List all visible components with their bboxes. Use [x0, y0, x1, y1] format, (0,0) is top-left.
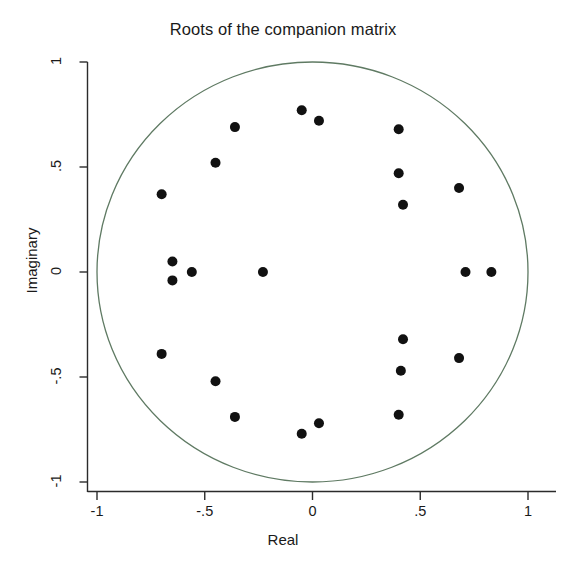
- scatter-point: [454, 183, 464, 193]
- scatter-point: [396, 366, 406, 376]
- scatter-point: [394, 168, 404, 178]
- scatter-point: [486, 267, 496, 277]
- scatter-point: [461, 267, 471, 277]
- x-tick-label: 0: [293, 503, 333, 519]
- scatter-point: [157, 349, 167, 359]
- scatter-point: [398, 200, 408, 210]
- x-axis-label: Real: [0, 531, 566, 548]
- scatter-point: [314, 418, 324, 428]
- scatter-point: [394, 410, 404, 420]
- y-tick-label: -.5: [48, 356, 64, 396]
- y-tick-label: -1: [48, 461, 64, 501]
- scatter-point: [230, 122, 240, 132]
- scatter-point: [230, 412, 240, 422]
- scatter-point: [398, 334, 408, 344]
- scatter-point: [297, 105, 307, 115]
- scatter-point: [157, 189, 167, 199]
- scatter-point: [187, 267, 197, 277]
- x-tick-label: -1: [77, 503, 117, 519]
- scatter-point: [167, 257, 177, 267]
- y-tick-label: 1: [48, 41, 64, 81]
- y-tick-label: .5: [48, 146, 64, 186]
- x-tick-label: -.5: [185, 503, 225, 519]
- scatter-point: [454, 353, 464, 363]
- scatter-point: [258, 267, 268, 277]
- scatter-point: [297, 429, 307, 439]
- x-tick-label: 1: [508, 503, 548, 519]
- scatter-point: [394, 124, 404, 134]
- scatter-point: [211, 376, 221, 386]
- x-tick-label: .5: [400, 503, 440, 519]
- y-tick-label: 0: [48, 251, 64, 291]
- roots-companion-matrix-figure: Roots of the companion matrix -1-.50.51 …: [0, 0, 566, 564]
- scatter-plot-canvas: [0, 0, 566, 564]
- data-points: [157, 105, 497, 438]
- scatter-point: [167, 275, 177, 285]
- y-axis-label: Imaginary: [23, 201, 40, 321]
- scatter-point: [314, 116, 324, 126]
- scatter-point: [211, 158, 221, 168]
